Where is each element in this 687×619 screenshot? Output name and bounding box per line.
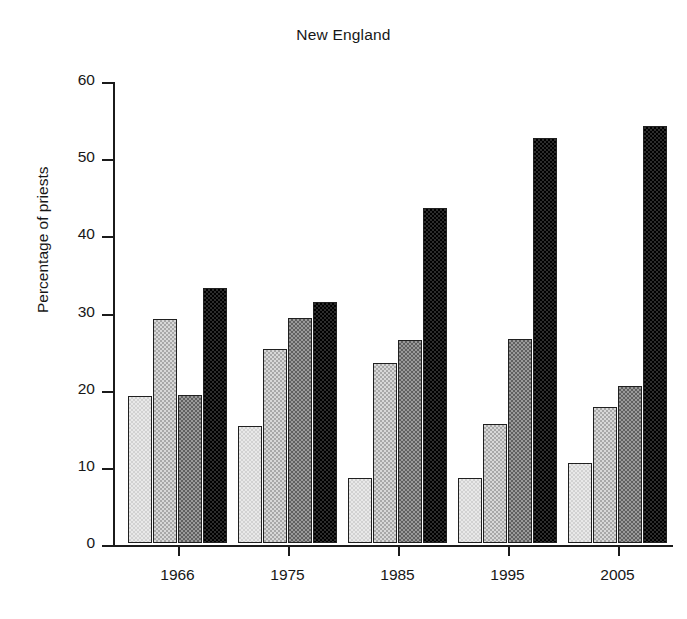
y-axis-tick-label: 40: [78, 225, 95, 243]
y-axis-tick: 0: [102, 545, 113, 547]
bar: [238, 426, 262, 543]
bar: [348, 478, 372, 543]
bar: [398, 340, 422, 543]
y-axis-tick: 30: [102, 314, 113, 316]
x-axis-line: [113, 545, 673, 547]
x-axis-tick: [288, 545, 290, 556]
x-axis-tick-label: 1985: [380, 566, 414, 584]
y-axis-tick-label: 60: [78, 71, 95, 89]
x-axis-tick-label: 1995: [490, 566, 524, 584]
bar: [288, 318, 312, 543]
bar: [458, 478, 482, 543]
y-axis-tick-label: 30: [78, 303, 95, 321]
y-axis-line: [113, 82, 115, 546]
bar: [178, 395, 202, 543]
x-axis-tick-label: 1975: [270, 566, 304, 584]
chart-figure: New England Percentage of priests 010203…: [0, 0, 687, 619]
y-axis-title: Percentage of priests: [34, 167, 52, 313]
bar: [483, 424, 507, 543]
bar: [643, 126, 667, 543]
bar: [373, 363, 397, 543]
y-axis-tick: 20: [102, 391, 113, 393]
y-axis-tick-label: 10: [78, 457, 95, 475]
y-axis-tick-label: 50: [78, 148, 95, 166]
bar: [533, 138, 557, 543]
bar: [593, 407, 617, 543]
bar: [423, 208, 447, 543]
bar: [263, 349, 287, 543]
y-axis-tick: 60: [102, 82, 113, 84]
y-axis-tick-label: 0: [86, 534, 95, 552]
y-axis-tick: 10: [102, 468, 113, 470]
bar: [508, 339, 532, 543]
x-axis-tick: [508, 545, 510, 556]
bar: [203, 288, 227, 543]
x-axis-tick-label: 2005: [600, 566, 634, 584]
plot-area: 0102030405060 19661975198519952005: [113, 82, 673, 545]
y-axis-tick: 40: [102, 236, 113, 238]
x-axis-tick: [618, 545, 620, 556]
x-axis-tick-label: 1966: [160, 566, 194, 584]
y-axis-tick-label: 20: [78, 380, 95, 398]
bar: [153, 319, 177, 543]
bar: [568, 463, 592, 543]
bar: [128, 396, 152, 543]
chart-title: New England: [0, 26, 687, 44]
x-axis-tick: [178, 545, 180, 556]
bar: [313, 302, 337, 543]
bar: [618, 386, 642, 543]
y-axis-tick: 50: [102, 159, 113, 161]
x-axis-tick: [398, 545, 400, 556]
